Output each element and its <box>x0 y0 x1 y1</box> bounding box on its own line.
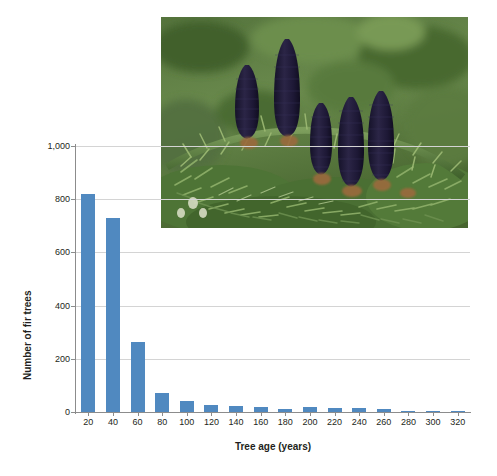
bar <box>131 342 145 412</box>
bar <box>328 408 342 412</box>
bar <box>229 406 243 412</box>
bar-slot <box>248 146 273 412</box>
x-tick-label: 40 <box>108 417 118 427</box>
bar-slot <box>322 146 347 412</box>
bar-series <box>76 146 470 412</box>
x-tick-label: 80 <box>157 417 167 427</box>
bar <box>401 411 415 413</box>
x-tick-mark <box>384 413 385 416</box>
bar-slot <box>76 146 101 412</box>
x-tick-mark <box>261 413 262 416</box>
bar <box>155 393 169 412</box>
y-tick-label: 800 <box>55 194 70 204</box>
bar <box>106 218 120 412</box>
x-tick-mark <box>285 413 286 416</box>
bar <box>180 401 194 412</box>
bar-slot <box>175 146 200 412</box>
y-tick-label: 400 <box>55 301 70 311</box>
bar-slot <box>445 146 470 412</box>
x-tick-label: 160 <box>253 417 268 427</box>
x-tick-mark <box>458 413 459 416</box>
x-tick-label: 200 <box>302 417 317 427</box>
x-tick-label: 280 <box>401 417 416 427</box>
x-tick-label: 260 <box>376 417 391 427</box>
x-tick-label: 100 <box>179 417 194 427</box>
bar <box>254 407 268 412</box>
x-tick-mark <box>88 413 89 416</box>
y-tick-label: 600 <box>55 247 70 257</box>
bar-slot <box>101 146 126 412</box>
x-tick-label: 300 <box>426 417 441 427</box>
bar-slot <box>150 146 175 412</box>
x-tick-mark <box>211 413 212 416</box>
x-tick-label: 320 <box>450 417 465 427</box>
bar <box>451 411 465 413</box>
x-tick-label: 60 <box>133 417 143 427</box>
x-tick-mark <box>408 413 409 416</box>
bar-slot <box>421 146 446 412</box>
bar-slot <box>396 146 421 412</box>
x-axis-title: Tree age (years) <box>76 441 470 452</box>
x-tick-mark <box>187 413 188 416</box>
x-tick-mark <box>433 413 434 416</box>
y-tick-label: 1,000 <box>47 141 70 151</box>
bar <box>303 407 317 412</box>
y-tick-label: 0 <box>65 407 70 417</box>
bar-slot <box>273 146 298 412</box>
bar-slot <box>224 146 249 412</box>
x-tick-mark <box>335 413 336 416</box>
bar <box>426 411 440 413</box>
y-tick-label: 200 <box>55 354 70 364</box>
bar <box>352 408 366 412</box>
bar <box>204 405 218 412</box>
bar-slot <box>199 146 224 412</box>
y-axis-ticks: 1,000 800 600 400 200 0 <box>24 146 70 412</box>
bar-slot <box>372 146 397 412</box>
bar <box>377 409 391 412</box>
x-tick-mark <box>162 413 163 416</box>
x-tick-mark <box>310 413 311 416</box>
x-tick-label: 20 <box>83 417 93 427</box>
bar <box>81 194 95 412</box>
bar-slot <box>298 146 323 412</box>
x-tick-mark <box>359 413 360 416</box>
x-tick-mark <box>138 413 139 416</box>
figure-panel: Number of fir trees 1,000 800 600 400 20… <box>0 0 497 476</box>
x-tick-label: 180 <box>278 417 293 427</box>
bar-slot <box>347 146 372 412</box>
bar-slot <box>125 146 150 412</box>
x-axis-ticks: 2040608010012014016018020022024026028030… <box>76 413 470 431</box>
x-tick-mark <box>236 413 237 416</box>
x-tick-mark <box>113 413 114 416</box>
x-tick-label: 220 <box>327 417 342 427</box>
x-tick-label: 240 <box>352 417 367 427</box>
x-tick-label: 140 <box>229 417 244 427</box>
x-tick-label: 120 <box>204 417 219 427</box>
bar <box>278 409 292 412</box>
